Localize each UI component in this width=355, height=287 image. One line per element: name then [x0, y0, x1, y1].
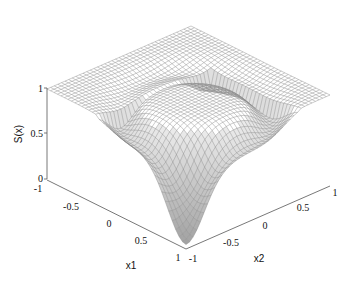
surface-plot: 1 0.5 0 S(x) -1 -0.5 0 0.5 1 x1 -1 -0.5 …: [0, 0, 355, 287]
z-tick-1: 1: [38, 83, 43, 94]
x2-tick-0: 0: [263, 220, 268, 231]
x2-tick-m1: -1: [189, 253, 197, 264]
z-axis-label: S(x): [13, 125, 24, 143]
x1-tick-0: 0: [107, 218, 112, 229]
x1-tick-m0.5: -0.5: [63, 201, 79, 212]
x1-tick-1: 1: [176, 252, 181, 263]
x2-tick-0.5: 0.5: [297, 202, 310, 213]
x2-tick-m0.5: -0.5: [223, 237, 239, 248]
x2-tick-1: 1: [333, 187, 338, 198]
x1-axis-label: x1: [126, 260, 137, 271]
surface-mesh: [47, 26, 330, 245]
x1-tick-m1: -1: [34, 183, 42, 194]
x2-axis-label: x2: [254, 253, 265, 264]
x1-tick-0.5: 0.5: [135, 235, 148, 246]
z-tick-0.5: 0.5: [31, 128, 44, 139]
